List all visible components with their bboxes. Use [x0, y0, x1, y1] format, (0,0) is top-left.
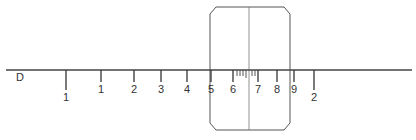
tick-label: 1 — [63, 92, 69, 103]
tick-label: 5 — [208, 84, 214, 95]
tick-label: 3 — [158, 84, 164, 95]
tick-label: 2 — [131, 84, 137, 95]
tick-label: 8 — [274, 84, 280, 95]
line-label-d: D — [16, 72, 24, 83]
ruler-diagram — [0, 0, 416, 140]
tick-label: 1 — [98, 84, 104, 95]
tick-label: 6 — [230, 84, 236, 95]
tick-label: 2 — [311, 92, 317, 103]
tick-label: 4 — [184, 84, 190, 95]
tick-label: 9 — [291, 84, 297, 95]
slider-window — [210, 7, 290, 130]
tick-label: 7 — [255, 84, 261, 95]
minor-ticks — [237, 70, 255, 78]
